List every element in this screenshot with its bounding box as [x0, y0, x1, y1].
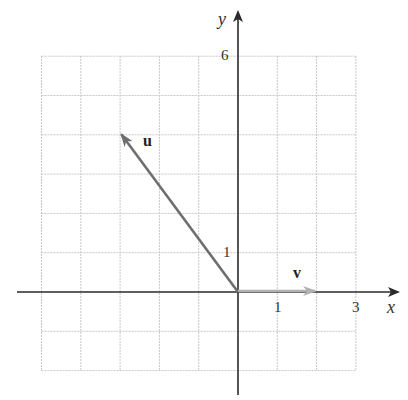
- grid: [42, 56, 356, 371]
- x-tick-3: 3: [352, 299, 360, 315]
- y-axis-label: y: [216, 9, 226, 29]
- vector-v-label: v: [293, 264, 301, 281]
- x-tick-1: 1: [274, 299, 282, 315]
- x-axis-label: x: [386, 297, 395, 317]
- y-tick-6: 6: [221, 47, 229, 63]
- y-tick-1: 1: [223, 244, 231, 260]
- vector-u-label: u: [143, 132, 152, 149]
- axes: [17, 12, 398, 395]
- vector-diagram: x y 1 3 1 6 u v: [0, 0, 408, 400]
